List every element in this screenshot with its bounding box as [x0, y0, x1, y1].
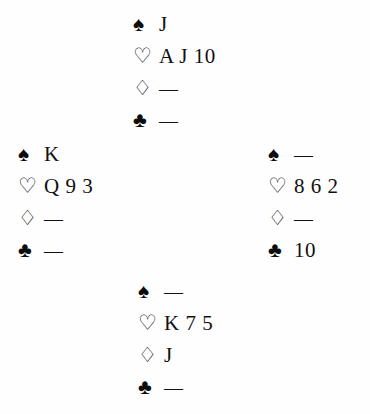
club-icon: ♣ — [18, 240, 40, 261]
hand-east-spades-row: ♠ — — [268, 138, 339, 170]
hand-west-hearts-ranks: Q 9 3 — [40, 176, 93, 197]
hand-west-clubs-ranks: — — [40, 241, 63, 260]
hand-west-diamonds-row: ♢ — — [18, 202, 93, 234]
hand-north-spades-ranks: J — [155, 14, 168, 35]
heart-icon: ♡ — [18, 176, 40, 197]
club-icon: ♣ — [138, 377, 160, 398]
hand-south-spades-row: ♠ — — [138, 275, 213, 307]
club-icon: ♣ — [268, 240, 290, 261]
hand-west-clubs-row: ♣ — — [18, 234, 93, 266]
hand-north-clubs-row: ♣ — — [133, 104, 216, 136]
hand-south-hearts-ranks: K 7 5 — [160, 313, 213, 334]
hand-east-diamonds-row: ♢ — — [268, 202, 339, 234]
hand-south-clubs-ranks: — — [160, 378, 183, 397]
hand-south: ♠ — ♡ K 7 5 ♢ J ♣ — — [138, 275, 213, 403]
diamond-icon: ♢ — [268, 208, 290, 229]
spade-icon: ♠ — [18, 144, 40, 165]
spade-icon: ♠ — [268, 144, 290, 165]
hand-north-clubs-ranks: — — [155, 111, 178, 130]
hand-north-hearts-ranks: A J 10 — [155, 46, 216, 67]
diamond-icon: ♢ — [138, 345, 160, 366]
hand-east-spades-ranks: — — [290, 145, 313, 164]
hand-south-hearts-row: ♡ K 7 5 — [138, 307, 213, 339]
hand-east: ♠ — ♡ 8 6 2 ♢ — ♣ 10 — [268, 138, 339, 266]
hand-north-spades-row: ♠ J — [133, 8, 216, 40]
hand-west-spades-row: ♠ K — [18, 138, 93, 170]
spade-icon: ♠ — [133, 14, 155, 35]
hand-south-clubs-row: ♣ — — [138, 371, 213, 403]
diamond-icon: ♢ — [18, 208, 40, 229]
diamond-icon: ♢ — [133, 78, 155, 99]
heart-icon: ♡ — [133, 46, 155, 67]
hand-north-diamonds-ranks: — — [155, 79, 178, 98]
bridge-deal-diagram: ♠ J ♡ A J 10 ♢ — ♣ — ♠ K ♡ Q 9 3 ♢ — — [0, 0, 370, 414]
heart-icon: ♡ — [268, 176, 290, 197]
hand-east-diamonds-ranks: — — [290, 209, 313, 228]
spade-icon: ♠ — [138, 281, 160, 302]
heart-icon: ♡ — [138, 313, 160, 334]
hand-east-hearts-ranks: 8 6 2 — [290, 176, 339, 197]
hand-east-hearts-row: ♡ 8 6 2 — [268, 170, 339, 202]
hand-north-diamonds-row: ♢ — — [133, 72, 216, 104]
hand-south-diamonds-ranks: J — [160, 345, 173, 366]
hand-north: ♠ J ♡ A J 10 ♢ — ♣ — — [133, 8, 216, 136]
hand-north-hearts-row: ♡ A J 10 — [133, 40, 216, 72]
club-icon: ♣ — [133, 110, 155, 131]
hand-south-diamonds-row: ♢ J — [138, 339, 213, 371]
hand-west-diamonds-ranks: — — [40, 209, 63, 228]
hand-south-spades-ranks: — — [160, 282, 183, 301]
hand-east-clubs-row: ♣ 10 — [268, 234, 339, 266]
hand-east-clubs-ranks: 10 — [290, 240, 316, 261]
hand-west-hearts-row: ♡ Q 9 3 — [18, 170, 93, 202]
hand-west: ♠ K ♡ Q 9 3 ♢ — ♣ — — [18, 138, 93, 266]
hand-west-spades-ranks: K — [40, 144, 60, 165]
